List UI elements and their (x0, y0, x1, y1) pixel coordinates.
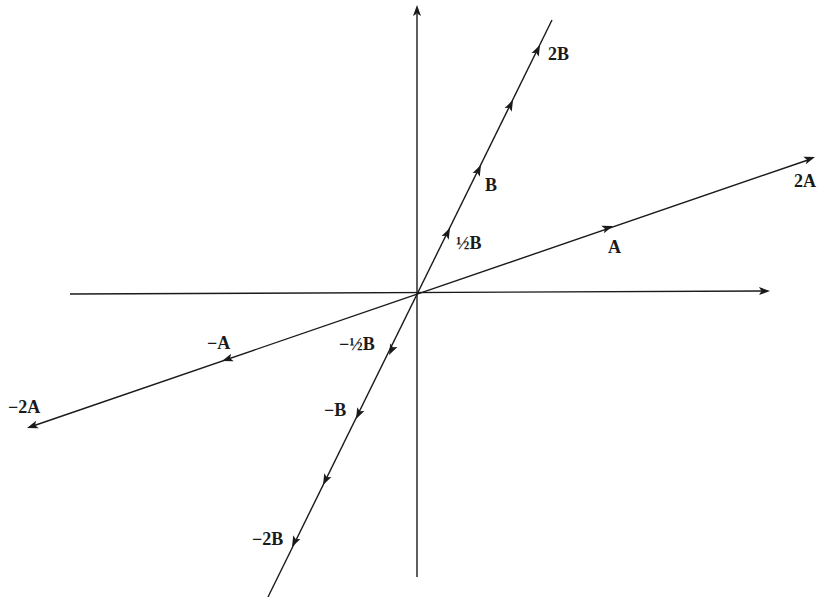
arrow-2a-icon (803, 153, 816, 164)
vector-line-b (268, 20, 552, 597)
arrow-2b-icon (532, 43, 544, 56)
arrow-neg-three-halves-b-icon (319, 473, 331, 486)
arrow-half-b-icon (442, 226, 454, 239)
label-neg-a: −A (207, 333, 230, 353)
arrow-neg-b-icon (352, 407, 364, 420)
arrow-neg-a-icon (221, 354, 234, 365)
label-neg-2b: −2B (252, 529, 283, 549)
label-a: A (608, 237, 621, 257)
x-axis (70, 291, 762, 294)
label-2b: 2B (548, 44, 569, 64)
axes (70, 5, 770, 577)
arrow-neg-2b-icon (288, 535, 300, 548)
label-neg-2a: −2A (8, 397, 40, 417)
arrow-neg-2a-icon (26, 421, 39, 432)
arrow-b-icon (473, 163, 485, 176)
label-b: B (485, 175, 497, 195)
label-half-b: ½B (456, 233, 482, 253)
label-neg-b: −B (324, 400, 346, 420)
arrow-three-halves-b-icon (505, 98, 517, 111)
vector-diagram: A 2A −A −2A ½B B 2B −½B −B −2B (0, 0, 827, 608)
label-neg-half-b: −½B (339, 334, 375, 354)
vector-line-a (26, 153, 817, 432)
label-2a: 2A (794, 171, 816, 191)
